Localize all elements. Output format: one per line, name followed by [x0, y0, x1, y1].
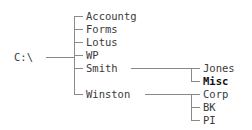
tee-bk: [191, 107, 200, 108]
connector-root-to-trunk: [46, 57, 74, 58]
tree-node-root[interactable]: C:\: [14, 51, 33, 63]
tree-node-corp[interactable]: Corp: [203, 88, 228, 100]
tree-node-accountg[interactable]: Accountg: [86, 10, 137, 22]
directory-tree-diagram: C:\ Accountg Forms Lotus WP Smith Winsto…: [0, 0, 252, 130]
trunk-smith-children: [191, 68, 192, 81]
tee-jones: [191, 68, 200, 69]
tee-wp: [74, 55, 83, 56]
tree-node-lotus[interactable]: Lotus: [86, 36, 118, 48]
tee-forms: [74, 29, 83, 30]
tee-accountg: [74, 16, 83, 17]
tee-corp: [191, 94, 200, 95]
tee-lotus: [74, 42, 83, 43]
tree-node-forms[interactable]: Forms: [86, 23, 118, 35]
connector-smith-to-subtrunk: [131, 68, 191, 69]
tee-misc: [191, 81, 200, 82]
tree-node-jones[interactable]: Jones: [203, 62, 235, 74]
tree-node-bk[interactable]: BK: [203, 101, 216, 113]
tee-pi: [191, 120, 200, 121]
tee-winston: [74, 94, 83, 95]
tree-node-pi[interactable]: PI: [203, 114, 216, 126]
connector-winston-to-subtrunk: [145, 94, 191, 95]
tree-node-wp[interactable]: WP: [86, 49, 99, 61]
tree-node-misc[interactable]: Misc: [203, 75, 228, 87]
tee-smith: [74, 68, 83, 69]
tree-node-smith[interactable]: Smith: [86, 62, 118, 74]
tree-node-winston[interactable]: Winston: [86, 88, 130, 100]
